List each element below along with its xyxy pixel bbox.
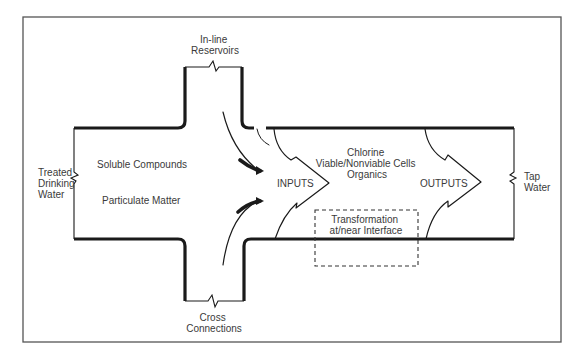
cross-connections-label: Cross Connections xyxy=(186,312,242,334)
transformation-label: Transformation at/near Interface xyxy=(330,214,403,236)
inline-reservoirs-label: In-line Reservoirs xyxy=(191,34,239,56)
inputs-label: INPUTS xyxy=(277,178,314,189)
particulate-matter-label: Particulate Matter xyxy=(102,195,181,206)
constituents-label: Chlorine Viable/Nonviable Cells Organics xyxy=(316,147,419,180)
cross-connection-right-wall xyxy=(244,239,514,301)
treated-drinking-water-label: Treated Drinking Water xyxy=(38,167,77,200)
pipe-network-diagram: In-line Reservoirs Cross Connections Tre… xyxy=(0,0,582,357)
reservoir-arrowhead-icon xyxy=(256,166,264,175)
soluble-compounds-label: Soluble Compounds xyxy=(97,159,187,170)
outlet-break-line xyxy=(510,128,516,239)
pipe-bottom-left-wall xyxy=(74,239,185,301)
cross-connection-break-line xyxy=(185,295,244,307)
cross-connection-arrowhead-icon xyxy=(256,197,264,205)
pipe-top-left-wall xyxy=(74,67,185,128)
reservoir-right-wall xyxy=(242,67,254,128)
tap-water-label: Tap Water xyxy=(524,171,551,193)
reservoir-break-line xyxy=(185,61,242,71)
reservoir-wall-curl xyxy=(257,129,269,145)
outputs-label: OUTPUTS xyxy=(420,178,468,189)
